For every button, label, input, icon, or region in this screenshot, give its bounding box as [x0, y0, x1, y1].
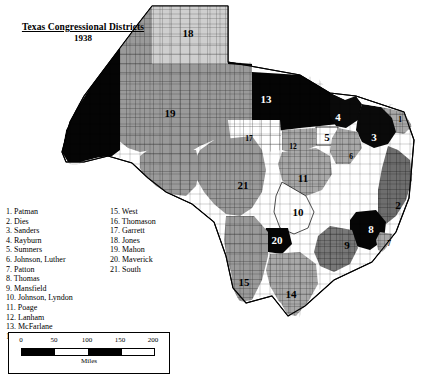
legend-entry-left-12: 13. McFarlane — [6, 322, 111, 332]
scale-tick-100: 100 — [82, 336, 93, 344]
district-number-8: 8 — [368, 224, 374, 235]
legend-entry-left-8: 9. Mansfield — [6, 284, 111, 294]
legend-entry-left-9: 10. Johnson, Lyndon — [6, 293, 111, 303]
scale-tick-0: 0 — [19, 336, 23, 344]
district-number-11: 11 — [298, 173, 308, 184]
district-number-10: 10 — [293, 207, 304, 218]
scale-bar-graphic — [21, 348, 155, 356]
legend-entry-right-2: 17. Garrett — [110, 226, 215, 236]
legend-entry-right-5: 20. Maverick — [110, 255, 215, 265]
district-number-16: 16 — [103, 181, 114, 192]
district-number-1: 1 — [398, 116, 402, 124]
scale-segment — [55, 349, 88, 355]
scale-segment — [89, 349, 122, 355]
legend-entry-left-3: 4. Rayburn — [6, 236, 111, 246]
district-16-area — [62, 48, 120, 162]
district-number-12: 12 — [289, 143, 297, 151]
legend-entry-left-6: 7. Patton — [6, 265, 111, 275]
legend-entry-left-1: 2. Dies — [6, 217, 111, 227]
legend-entry-left-4: 5. Sumners — [6, 245, 111, 255]
scale-tick-150: 150 — [115, 336, 126, 344]
scale-tick-200: 200 — [148, 336, 159, 344]
scale-unit-label: Miles — [9, 357, 169, 365]
district-number-5: 5 — [324, 132, 330, 143]
legend-entry-left-0: 1. Patman — [6, 207, 111, 217]
scale-segment — [122, 349, 154, 355]
map-title-line1: Texas Congressional Districts — [18, 22, 148, 33]
scale-segment — [22, 349, 55, 355]
legend-entry-left-2: 3. Sanders — [6, 226, 111, 236]
legend-entry-right-0: 15. West — [110, 207, 215, 217]
map-title-line2: 1938 — [18, 33, 148, 43]
legend-entry-left-5: 6. Johnson, Luther — [6, 255, 111, 265]
district-number-18: 18 — [183, 28, 194, 39]
district-number-2: 2 — [395, 200, 401, 211]
legend-entry-right-1: 16. Thomason — [110, 217, 215, 227]
legend-entry-left-11: 12. Lanham — [6, 313, 111, 323]
legend-entry-left-7: 8. Thomas — [6, 274, 111, 284]
legend-column-right: 15. West16. Thomason17. Garrett18. Jones… — [110, 207, 215, 274]
legend-entry-right-3: 18. Jones — [110, 236, 215, 246]
district-number-20: 20 — [272, 235, 283, 246]
scale-tick-labels: 050100150200 — [9, 336, 169, 346]
district-number-6: 6 — [349, 153, 353, 161]
scale-tick-50: 50 — [51, 336, 58, 344]
scale-bar: 050100150200 Miles — [8, 332, 170, 374]
legend-entry-right-4: 19. Mahon — [110, 245, 215, 255]
district-number-21: 21 — [238, 180, 249, 191]
legend-entry-right-6: 21. South — [110, 265, 215, 275]
district-number-9: 9 — [344, 240, 350, 251]
map-title: Texas Congressional Districts 1938 — [18, 22, 148, 43]
legend-entry-left-10: 11. Poage — [6, 303, 111, 313]
district-number-17: 17 — [245, 135, 253, 143]
district-number-4: 4 — [335, 112, 341, 123]
texas-congressional-districts-map: Texas Congressional Districts 1938 18191… — [0, 0, 421, 382]
district-number-14: 14 — [286, 289, 297, 300]
district-number-3: 3 — [371, 132, 377, 143]
district-number-15: 15 — [239, 277, 250, 288]
district-number-13: 13 — [261, 94, 272, 105]
district-number-7: 7 — [387, 240, 391, 248]
district-number-19: 19 — [165, 108, 176, 119]
legend-column-left: 1. Patman2. Dies3. Sanders4. Rayburn5. S… — [6, 207, 111, 341]
